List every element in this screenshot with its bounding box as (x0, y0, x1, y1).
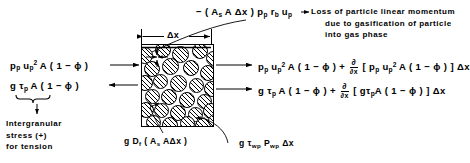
wall-friction-label: g τwp Pwp Δx (239, 138, 294, 149)
delta-x-label: Δx (167, 30, 179, 40)
gasification-description-line-2: due to gasification of particle (325, 18, 455, 30)
control-volume-box (141, 44, 214, 127)
particle (162, 58, 179, 75)
drag-force-label: g Df ( As AΔx ) (124, 136, 187, 147)
gasification-expression: − ( As A Δx ) pp rb up (196, 6, 292, 18)
particle (206, 51, 214, 66)
particle (183, 60, 199, 76)
particle (162, 117, 178, 127)
particle (200, 65, 214, 81)
gasification-description-line-3: into gas phase (325, 29, 455, 41)
particle (189, 78, 204, 93)
intergranular-brace (16, 95, 50, 103)
intergranular-stress-note: Intergranular stress (+) for tension (6, 118, 62, 153)
gasification-description: Loss of particle linear momentum due to … (311, 6, 455, 41)
inflow-convective-momentum-label: pp up2 A ( 1 − ϕ ) (10, 59, 88, 71)
intergranular-note-line-3: for tension (6, 141, 62, 153)
outflow-convective-momentum-label: pp up2 A ( 1 − ϕ ) + ∂∂x [ pp up2 A ( 1 … (258, 58, 470, 75)
inflow-intergranular-stress-label: g τp A ( 1 − ϕ ) (10, 80, 79, 92)
intergranular-note-line-1: Intergranular (6, 118, 62, 130)
particle (180, 116, 195, 127)
particle (208, 114, 214, 127)
gasification-description-line-1: Loss of particle linear momentum (311, 6, 455, 18)
outflow-intergranular-stress-label: g τp A ( 1 − ϕ ) + ∂∂x [ gτpA ( 1 − ϕ ) … (258, 82, 446, 99)
particle (153, 74, 168, 89)
intergranular-note-line-2: stress (+) (6, 130, 62, 142)
particle (155, 44, 171, 58)
particle (146, 115, 161, 127)
